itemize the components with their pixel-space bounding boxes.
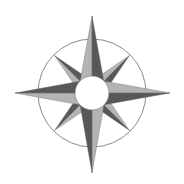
center-disc [75, 76, 109, 110]
compass-rose-canvas [0, 0, 184, 184]
compass-rose-icon [0, 0, 184, 184]
